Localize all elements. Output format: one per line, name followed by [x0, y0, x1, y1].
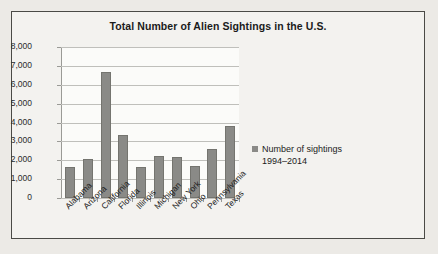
gridline [61, 141, 239, 142]
y-axis-tick-mark [57, 85, 61, 86]
legend: Number of sightings 1994–2014 [252, 143, 412, 167]
bar [101, 72, 111, 198]
y-axis-tick-label: 4,000 [0, 117, 32, 127]
y-axis-tick-mark [57, 123, 61, 124]
legend-item: Number of sightings [252, 143, 412, 155]
gridline [61, 104, 239, 105]
gridline [61, 47, 239, 48]
y-axis-tick-mark [57, 66, 61, 67]
y-axis-tick-mark [57, 47, 61, 48]
y-axis-tick-mark [57, 160, 61, 161]
y-axis-tick-label: 8,000 [0, 41, 32, 51]
y-axis-tick-label: 3,000 [0, 135, 32, 145]
legend-label-line2: 1994–2014 [262, 155, 412, 167]
y-axis-tick-mark [57, 179, 61, 180]
chart-page: Total Number of Alien Sightings in the U… [0, 0, 438, 254]
legend-label-line1: Number of sightings [262, 143, 342, 155]
y-axis-tick-label: 2,000 [0, 154, 32, 164]
y-axis-tick-label: 6,000 [0, 79, 32, 89]
gridline [61, 85, 239, 86]
chart-frame: Total Number of Alien Sightings in the U… [11, 11, 425, 239]
chart-title: Total Number of Alien Sightings in the U… [12, 20, 424, 32]
gridline [61, 123, 239, 124]
y-axis-tick-mark [57, 141, 61, 142]
y-axis-tick-label: 5,000 [0, 98, 32, 108]
legend-swatch-icon [252, 146, 258, 152]
y-axis-tick-mark [57, 104, 61, 105]
y-axis-tick-label: 1,000 [0, 173, 32, 183]
y-axis-tick-mark [57, 198, 61, 199]
y-axis-tick-label: 0 [0, 192, 32, 202]
gridline [61, 66, 239, 67]
y-axis-tick-label: 7,000 [0, 60, 32, 70]
bar [207, 149, 217, 198]
